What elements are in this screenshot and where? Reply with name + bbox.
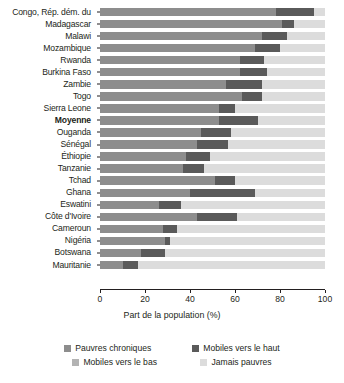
bar-segment [204, 164, 326, 172]
bar-segment [181, 201, 325, 209]
bar-track [100, 213, 325, 221]
bar-row: Tanzanie [0, 163, 344, 175]
bar-row: Mozambique [0, 42, 344, 54]
bar-segment [183, 164, 203, 172]
bar-row: Burkina Faso [0, 66, 344, 78]
x-axis-tick-label: 100 [313, 294, 337, 304]
bar-row: Botswana [0, 247, 344, 259]
bar-track [100, 176, 325, 184]
bar-track [100, 8, 325, 16]
bar-segment [100, 189, 190, 197]
bar-segment [159, 201, 182, 209]
category-label: Eswatini [0, 200, 96, 209]
bar-segment [262, 32, 287, 40]
category-label: Sénégal [0, 140, 96, 149]
bar-track [100, 237, 325, 245]
bar-segment [100, 44, 255, 52]
bar-track [100, 225, 325, 233]
legend-label: Jamais pauvres [211, 357, 271, 367]
bar-segment [100, 176, 215, 184]
legend-row-1: Pauvres chroniques Mobiles vers le haut [0, 343, 344, 353]
category-label: Moyenne [0, 116, 96, 125]
bar-row: Madagascar [0, 18, 344, 30]
bar-segment [100, 80, 226, 88]
x-axis-title: Part de la population (%) [0, 310, 344, 320]
bar-segment [219, 116, 257, 124]
bar-segment [165, 249, 325, 257]
bar-track [100, 80, 325, 88]
legend-label: Mobiles vers le haut [203, 343, 279, 353]
category-label: Madagascar [0, 20, 96, 29]
bar-segment [170, 237, 325, 245]
bar-row: Cameroun [0, 223, 344, 235]
bar-segment [201, 128, 230, 136]
category-label: Côte d'Ivoire [0, 212, 96, 221]
bar-row: Mauritanie [0, 259, 344, 271]
bar-row: Moyenne [0, 114, 344, 126]
bar-segment [100, 20, 282, 28]
bar-segment [141, 249, 166, 257]
bar-row: Togo [0, 90, 344, 102]
bar-segment [100, 128, 201, 136]
bar-segment [314, 8, 325, 16]
bar-segment [100, 140, 197, 148]
x-axis-tick-label: 80 [268, 294, 292, 304]
bar-track [100, 104, 325, 112]
category-label: Burkina Faso [0, 68, 96, 77]
bar-segment [177, 225, 326, 233]
bar-segment [264, 56, 325, 64]
category-label: Congo, Rép. dém. du [0, 8, 96, 17]
category-label: Éthiopie [0, 152, 96, 161]
bar-segment [163, 225, 177, 233]
bar-segment [215, 176, 235, 184]
category-label: Tchad [0, 176, 96, 185]
bar-segment [231, 128, 326, 136]
bar-segment [237, 213, 325, 221]
category-label: Botswana [0, 248, 96, 257]
category-label: Mauritanie [0, 261, 96, 270]
bar-segment [100, 249, 141, 257]
bar-segment [100, 164, 183, 172]
bar-segment [267, 68, 326, 76]
stacked-bar-chart: Congo, Rép. dém. duMadagascarMalawiMozam… [0, 0, 344, 383]
bar-row: Congo, Rép. dém. du [0, 6, 344, 18]
category-label: Zambie [0, 80, 96, 89]
x-axis-tick [100, 290, 101, 294]
legend-item-mobiles-vers-le-haut: Mobiles vers le haut [192, 343, 279, 353]
bar-segment [258, 116, 326, 124]
bar-segment [100, 32, 262, 40]
bar-segment [100, 104, 219, 112]
bar-track [100, 68, 325, 76]
legend-swatch-icon [200, 359, 207, 366]
bar-segment [100, 68, 240, 76]
bar-segment [255, 189, 325, 197]
bar-segment [240, 68, 267, 76]
bar-track [100, 116, 325, 124]
bar-segment [100, 56, 240, 64]
legend-item-jamais-pauvres: Jamais pauvres [200, 357, 271, 367]
category-label: Nigéria [0, 236, 96, 245]
x-axis-tick [145, 290, 146, 294]
bar-row: Malawi [0, 30, 344, 42]
legend-swatch-icon [64, 345, 71, 352]
plot-area: Congo, Rép. dém. duMadagascarMalawiMozam… [0, 0, 344, 300]
x-axis-tick-label: 0 [88, 294, 112, 304]
bar-segment [280, 44, 325, 52]
legend-item-mobiles-vers-le-bas: Mobiles vers le bas [72, 357, 200, 367]
bar-row: Éthiopie [0, 151, 344, 163]
bar-row: Ghana [0, 187, 344, 199]
x-axis-tick [190, 290, 191, 294]
bar-track [100, 152, 325, 160]
x-axis-tick-label: 20 [133, 294, 157, 304]
bar-segment [138, 261, 325, 269]
category-label: Ouganda [0, 128, 96, 137]
bar-segment [219, 104, 235, 112]
x-axis-tick [235, 290, 236, 294]
bar-segment [186, 152, 211, 160]
bar-segment [228, 140, 325, 148]
legend-label: Pauvres chroniques [75, 343, 151, 353]
bar-row: Nigéria [0, 235, 344, 247]
bar-segment [210, 152, 325, 160]
legend-item-pauvres-chroniques: Pauvres chroniques [64, 343, 192, 353]
bar-segment [226, 80, 262, 88]
